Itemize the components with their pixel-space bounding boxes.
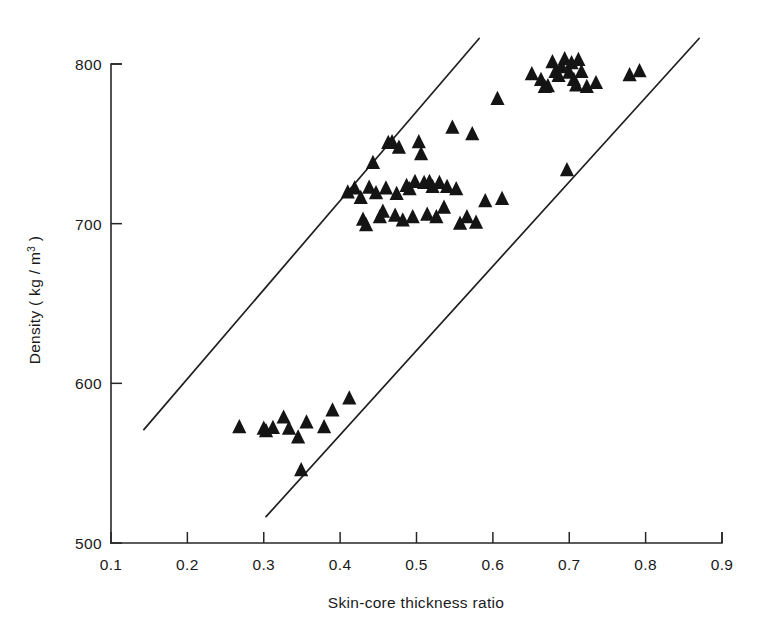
data-point-marker bbox=[560, 162, 574, 176]
data-point-marker bbox=[478, 193, 492, 207]
x-tick-label: 0.8 bbox=[634, 556, 657, 573]
x-tick-label: 0.4 bbox=[329, 556, 352, 573]
x-tick-label: 0.6 bbox=[482, 556, 505, 573]
data-point-marker bbox=[412, 134, 426, 148]
upper-bound-line bbox=[144, 38, 479, 429]
x-tick-label: 0.5 bbox=[405, 556, 428, 573]
data-point-marker bbox=[299, 414, 313, 428]
data-point-marker bbox=[294, 462, 308, 476]
x-axis-title: Skin-core thickness ratio bbox=[328, 594, 504, 611]
x-tick-label: 0.9 bbox=[711, 556, 734, 573]
x-tick-label: 0.1 bbox=[100, 556, 123, 573]
data-point-marker bbox=[545, 54, 559, 68]
data-point-marker bbox=[490, 91, 504, 105]
y-axis-title-close: ) bbox=[26, 236, 43, 246]
y-axis-title-base: Density ( kg / m bbox=[26, 252, 43, 364]
data-point-marker bbox=[445, 120, 459, 134]
tick-labels-group: 5006007008000.10.20.30.40.50.60.70.80.9 bbox=[75, 56, 733, 573]
data-point-marker bbox=[379, 180, 393, 194]
data-point-marker bbox=[317, 419, 331, 433]
y-tick-label: 800 bbox=[75, 56, 102, 73]
x-tick-label: 0.2 bbox=[176, 556, 199, 573]
plot-canvas: 5006007008000.10.20.30.40.50.60.70.80.9 … bbox=[0, 0, 774, 634]
axes-group bbox=[111, 64, 722, 543]
x-tick-label: 0.7 bbox=[558, 556, 581, 573]
y-axis-title: Density ( kg / m3 ) bbox=[25, 236, 43, 365]
data-point-marker bbox=[589, 75, 603, 89]
data-point-marker bbox=[460, 209, 474, 223]
scatter-chart-figure: 5006007008000.10.20.30.40.50.60.70.80.9 … bbox=[0, 0, 774, 634]
x-tick-label: 0.3 bbox=[252, 556, 275, 573]
y-tick-label: 700 bbox=[75, 216, 102, 233]
data-point-marker bbox=[376, 203, 390, 217]
boundary-lines-group bbox=[144, 38, 699, 516]
data-markers-group bbox=[232, 51, 646, 476]
data-point-marker bbox=[437, 199, 451, 213]
data-point-marker bbox=[342, 390, 356, 404]
data-point-marker bbox=[325, 402, 339, 416]
y-tick-label: 500 bbox=[75, 535, 102, 552]
y-tick-label: 600 bbox=[75, 375, 102, 392]
data-point-marker bbox=[632, 63, 646, 77]
lower-bound-line bbox=[266, 38, 699, 516]
data-point-marker bbox=[465, 126, 479, 140]
data-point-marker bbox=[495, 191, 509, 205]
data-point-marker bbox=[406, 209, 420, 223]
data-point-marker bbox=[232, 419, 246, 433]
data-point-marker bbox=[525, 66, 539, 80]
